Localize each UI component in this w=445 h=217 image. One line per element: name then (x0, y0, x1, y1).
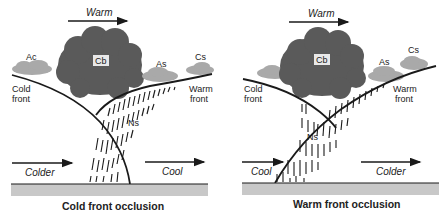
ac-cloud (12, 60, 52, 75)
ground-strip (11, 184, 208, 196)
panel-warm-front-occlusion: Warm Cb As Cs (242, 8, 439, 210)
cs-cloud (400, 56, 428, 70)
as-cloud (142, 67, 178, 82)
warm-front-label-1: Warm (189, 84, 213, 94)
ground-strip (242, 183, 439, 195)
colder-label: Colder (25, 167, 55, 178)
warm-label: Warm (308, 8, 334, 19)
cb-label: Cb (316, 55, 328, 65)
colder-label: Colder (376, 166, 406, 177)
panel-cold-front-occlusion: Warm Ac Cb As (11, 7, 214, 212)
occlusion-diagram: Warm Ac Cb As (0, 0, 445, 217)
cs-cloud (186, 62, 214, 75)
as-label: As (156, 59, 167, 69)
warm-front-label-2: front (395, 94, 414, 104)
cold-front-label-2: front (244, 94, 263, 104)
ac-label: Ac (26, 52, 37, 62)
cs-label: Cs (408, 45, 419, 55)
warm-label: Warm (86, 7, 112, 18)
cb-label: Cb (95, 56, 107, 66)
caption-warm-front-occlusion: Warm front occlusion (293, 198, 401, 210)
cold-front-label-1: Cold (244, 84, 263, 94)
ns-label: Ns (128, 118, 139, 128)
caption-cold-front-occlusion: Cold front occlusion (62, 200, 164, 212)
cs-label: Cs (195, 52, 206, 62)
warm-front-label-1: Warm (393, 84, 417, 94)
warm-front-label-2: front (190, 94, 209, 104)
as-label: As (379, 57, 390, 67)
as-cloud (368, 66, 404, 82)
ns-rain-hatching (277, 84, 384, 182)
cool-label: Cool (162, 166, 183, 177)
cold-front-label-1: Cold (12, 84, 31, 94)
cold-front-label-2: front (12, 94, 31, 104)
cool-label: Cool (251, 166, 272, 177)
